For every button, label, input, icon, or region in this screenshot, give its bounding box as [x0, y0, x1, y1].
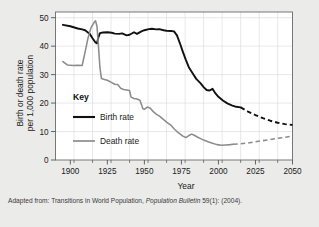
chart-background-layer [0, 0, 319, 227]
caption-suffix: 59(1): (2004). [200, 197, 242, 205]
source-caption: Adapted from: Transitions in World Popul… [8, 197, 242, 205]
legend-title: Key [73, 92, 89, 102]
y-tick-label: 10 [39, 128, 49, 137]
x-tick-label: 1975 [172, 167, 191, 176]
x-tick-label: 2025 [246, 167, 265, 176]
x-tick-label: 1925 [98, 167, 117, 176]
chart-canvas: 190019251950197520002025205001020304050 … [0, 0, 319, 227]
y-axis-title-line1: Birth or death rate [15, 59, 25, 126]
x-tick-label: 1950 [135, 167, 154, 176]
y-axis-title-line2: per 1,000 population [25, 54, 35, 131]
legend-label-death-rate: Death rate [100, 136, 139, 146]
y-tick-label: 0 [44, 156, 49, 165]
caption-italic: Population Bulletin [146, 197, 201, 205]
x-axis-title: Year [178, 181, 195, 191]
caption-prefix: Adapted from: Transitions in World Popul… [8, 197, 146, 205]
x-tick-label: 1900 [61, 167, 80, 176]
y-tick-label: 50 [39, 14, 49, 23]
y-tick-label: 20 [39, 99, 49, 108]
x-tick-label: 2000 [209, 167, 228, 176]
legend-label-birth-rate: Birth rate [100, 112, 134, 122]
x-tick-label: 2050 [283, 167, 302, 176]
y-axis-title: Birth or death rate per 1,000 population [15, 54, 35, 131]
chart-figure: 190019251950197520002025205001020304050 … [0, 0, 319, 227]
y-tick-label: 30 [39, 71, 49, 80]
y-tick-label: 40 [39, 42, 49, 51]
